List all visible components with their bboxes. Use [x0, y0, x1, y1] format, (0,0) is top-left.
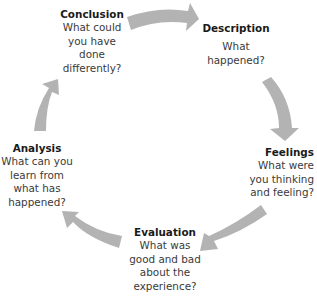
node-text-line: differently? — [52, 62, 132, 75]
node-evaluation: Evaluation What was good and bad about t… — [120, 226, 210, 293]
node-title: Feelings — [226, 146, 314, 159]
arrow-feelings-to-evaluation — [200, 205, 267, 251]
node-text-line: done — [52, 48, 132, 61]
arrow-evaluation-to-analysis — [62, 211, 122, 248]
node-text-line: What were — [226, 159, 314, 172]
node-text-line: about the — [120, 266, 210, 279]
node-text-line: happened? — [196, 54, 276, 67]
node-text-line: happened? — [0, 196, 80, 209]
node-text-line: What — [196, 40, 276, 53]
node-analysis: Analysis What can you learn from what ha… — [0, 142, 80, 209]
node-text-line: learn from — [0, 169, 80, 182]
node-text-line: what has — [0, 182, 80, 195]
node-text-line: experience? — [120, 280, 210, 293]
arrow-analysis-to-conclusion — [34, 79, 59, 131]
node-title: Analysis — [0, 142, 80, 155]
arrow-conclusion-to-description — [127, 3, 199, 31]
node-title: Conclusion — [52, 8, 132, 21]
node-title: Description — [196, 22, 276, 35]
node-text-line: What was — [120, 239, 210, 252]
node-text-line: What can you — [0, 155, 80, 168]
node-title: Evaluation — [120, 226, 210, 239]
arrow-description-to-feelings — [262, 77, 299, 141]
node-feelings: Feelings What were you thinking and feel… — [226, 146, 314, 200]
node-text-line: you thinking — [226, 173, 314, 186]
node-text-line: you have — [52, 35, 132, 48]
node-conclusion: Conclusion What could you have done diff… — [52, 8, 132, 75]
node-text-line: What could — [52, 21, 132, 34]
node-description: Description What happened? — [196, 22, 276, 67]
node-text-line: good and bad — [120, 253, 210, 266]
node-text-line: and feeling? — [226, 186, 314, 199]
